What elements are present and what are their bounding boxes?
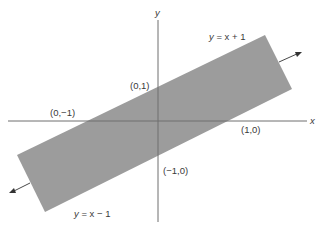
point-label-1-0: (1,0) [241, 125, 261, 135]
lower-line-rhs: = x − 1 [79, 208, 111, 219]
upper-line-rhs: = x + 1 [214, 31, 246, 42]
x-axis-label: x [310, 116, 315, 126]
upper-line-label: y = x + 1 [209, 32, 245, 42]
point-label-minus1-0: (−1,0) [163, 166, 188, 176]
lower-line-label: y = x − 1 [74, 209, 110, 219]
diagram-canvas [0, 0, 320, 225]
point-label-0-minus1: (0,−1) [50, 108, 75, 118]
arrow-upper-right-icon [279, 52, 302, 62]
region-between-lines-diagram: y x y = x + 1 y = x − 1 (0,1) (0,−1) (1,… [0, 0, 320, 225]
point-label-0-1: (0,1) [130, 81, 150, 91]
y-axis-label: y [155, 8, 160, 18]
arrow-lower-left-icon [9, 183, 30, 193]
